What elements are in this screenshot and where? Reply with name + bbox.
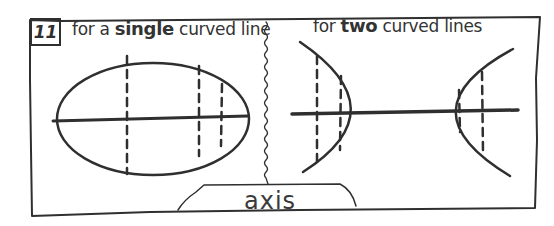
left-caption: for a single curved line [72,18,270,39]
left-caption-emphasis: single [115,18,174,39]
right-caption-suffix: curved lines [377,16,482,36]
ellipse-axis-line [53,116,248,121]
hyperbola-left-branch [300,42,351,172]
wavy-divider [265,22,269,184]
right-caption-prefix: for [313,16,341,36]
hyperbola-figure [292,42,518,176]
ellipse-figure [53,56,249,175]
panel-number: 11 [30,18,61,46]
axis-label: axis [244,187,296,215]
hyperbola-axis-line [292,110,518,114]
left-caption-prefix: for a [72,19,115,39]
right-caption-emphasis: two [341,15,378,36]
left-caption-suffix: curved line [174,19,270,39]
right-caption: for two curved lines [313,15,482,36]
dashed-chord [221,84,222,146]
dashed-chord [459,90,460,132]
dashed-chord [340,76,341,150]
